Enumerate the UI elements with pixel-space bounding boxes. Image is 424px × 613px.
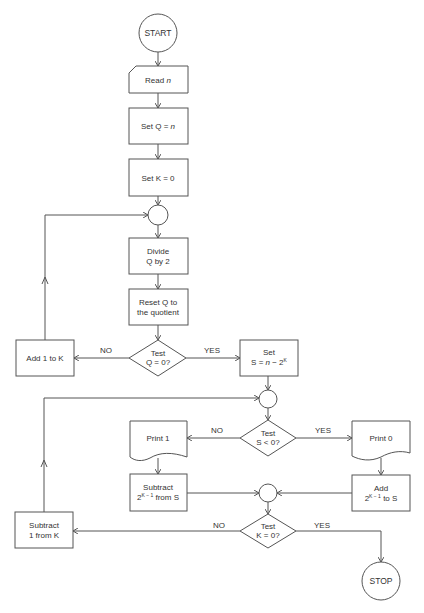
connectors	[41, 52, 381, 562]
svg-text:S < 0?: S < 0?	[256, 438, 280, 447]
svg-text:S = n − 2K: S = n − 2K	[251, 357, 287, 367]
add-1-to-k-process: Add 1 to K	[16, 340, 74, 376]
connector-3	[259, 484, 277, 502]
svg-text:Test: Test	[261, 429, 276, 438]
test-q-decision: Test Q = 0?	[129, 340, 186, 376]
set-k-process: Set K = 0	[129, 159, 188, 196]
print-0-output: Print 0	[352, 421, 410, 460]
test-k-decision: Test K = 0?	[240, 514, 296, 548]
reset-q-process: Reset Q to the quotient	[129, 289, 188, 325]
no-label: NO	[211, 426, 223, 435]
no-label: NO	[100, 346, 112, 355]
start-terminal: START	[139, 14, 177, 52]
divide-process: Divide Q by 2	[129, 238, 188, 274]
subtract-1-from-k-process: Subtract 1 from K	[15, 512, 73, 548]
yes-label: YES	[314, 521, 330, 530]
svg-text:Subtract: Subtract	[143, 483, 174, 492]
no-label: NO	[213, 521, 225, 530]
svg-text:Print 1: Print 1	[146, 434, 170, 443]
svg-text:Divide: Divide	[147, 247, 170, 256]
add-to-s-process: Add 2K − 1 to S	[352, 475, 410, 511]
test-s-decision: Test S < 0?	[240, 420, 296, 456]
yes-label: YES	[204, 346, 220, 355]
connector-1	[148, 205, 168, 225]
svg-text:Set Q = n: Set Q = n	[141, 122, 176, 131]
svg-text:Subtract: Subtract	[29, 521, 60, 530]
svg-text:Q = 0?: Q = 0?	[146, 358, 171, 367]
stop-terminal: STOP	[362, 562, 400, 600]
svg-text:the quotient: the quotient	[137, 308, 180, 317]
svg-text:Q by 2: Q by 2	[146, 257, 170, 266]
svg-text:Add: Add	[374, 484, 388, 493]
svg-text:Add 1 to K: Add 1 to K	[26, 354, 64, 363]
flowchart: START Read n Set Q = n Set K = 0 Divide …	[0, 0, 424, 613]
svg-text:Set: Set	[263, 348, 276, 357]
read-n-input: Read n	[129, 66, 188, 93]
svg-text:Set K = 0: Set K = 0	[141, 174, 175, 183]
svg-text:START: START	[144, 28, 171, 38]
svg-text:Test: Test	[151, 349, 166, 358]
svg-text:STOP: STOP	[370, 576, 393, 586]
svg-text:Reset Q to: Reset Q to	[139, 298, 178, 307]
svg-text:Print 0: Print 0	[369, 434, 393, 443]
svg-text:1 from K: 1 from K	[29, 531, 60, 540]
yes-label: YES	[315, 426, 331, 435]
svg-text:Test: Test	[261, 522, 276, 531]
set-s-process: Set S = n − 2K	[240, 340, 298, 376]
svg-text:K = 0?: K = 0?	[256, 531, 280, 540]
svg-text:Read n: Read n	[145, 76, 171, 85]
connector-2	[259, 390, 277, 408]
subtract-from-s-process: Subtract 2K − 1 from S	[130, 474, 187, 511]
print-1-output: Print 1	[130, 421, 187, 461]
set-q-process: Set Q = n	[129, 108, 188, 144]
